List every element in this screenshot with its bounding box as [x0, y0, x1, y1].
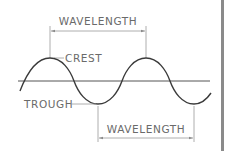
crest-label: CREST — [65, 52, 102, 64]
trough-label: TROUGH — [23, 98, 73, 110]
wave-diagram: WAVELENGTH CREST TROUGH WAVELENGTH — [0, 0, 227, 151]
top-wavelength-label: WAVELENGTH — [59, 15, 138, 27]
bottom-wavelength-dimension: WAVELENGTH — [98, 106, 194, 142]
bottom-wavelength-label: WAVELENGTH — [107, 123, 186, 135]
right-border-bar — [221, 0, 224, 151]
